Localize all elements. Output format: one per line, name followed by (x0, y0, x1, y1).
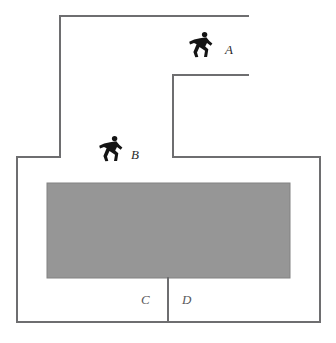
runner-label-a: A (225, 43, 233, 56)
running-person-icon (97, 134, 127, 164)
room-label-c: C (141, 293, 150, 306)
room-label-d: D (182, 293, 192, 306)
running-person-icon (187, 30, 217, 60)
runner-label-b: B (131, 148, 139, 161)
diagram-canvas (0, 0, 336, 343)
shaded-block (47, 183, 290, 278)
floor-plan-diagram: C D A B (0, 0, 336, 343)
